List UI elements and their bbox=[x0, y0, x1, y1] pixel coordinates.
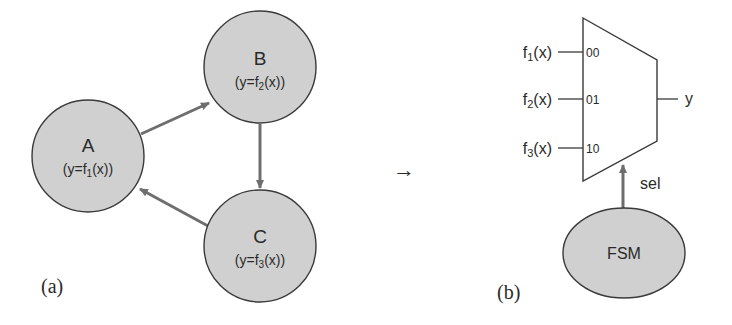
edge-c-to-a bbox=[140, 189, 208, 226]
select-signal-label: sel bbox=[640, 175, 660, 192]
mux-select-code-10: 10 bbox=[586, 142, 600, 156]
edge-a-to-b bbox=[141, 103, 209, 134]
transform-arrow-icon: → bbox=[393, 157, 415, 182]
mux-select-code-00: 00 bbox=[586, 46, 600, 60]
state-node-c-name: C bbox=[253, 226, 267, 247]
fsm-node: FSM bbox=[563, 208, 685, 298]
panel-b: f1(x) f2(x) f3(x) 00 01 10 y sel FSM (b) bbox=[497, 18, 693, 304]
mux-input-label-1: f1(x) bbox=[523, 44, 552, 63]
diagram-canvas: A (y=f1(x)) B (y=f2(x)) C (y=f3(x)) (a) … bbox=[0, 0, 732, 325]
state-node-a: A (y=f1(x)) bbox=[32, 100, 144, 212]
state-node-b: B (y=f2(x)) bbox=[204, 11, 316, 123]
state-node-b-name: B bbox=[254, 48, 267, 69]
panel-a-label: (a) bbox=[41, 275, 63, 298]
mux-input-label-2: f2(x) bbox=[523, 91, 552, 110]
state-node-a-name: A bbox=[82, 135, 95, 156]
mux-output-label: y bbox=[685, 90, 693, 107]
mux-select-code-01: 01 bbox=[586, 93, 600, 107]
fsm-label: FSM bbox=[607, 245, 641, 262]
state-node-c: C (y=f3(x)) bbox=[204, 190, 316, 302]
panel-b-label: (b) bbox=[497, 281, 520, 304]
panel-a: A (y=f1(x)) B (y=f2(x)) C (y=f3(x)) (a) bbox=[32, 11, 316, 302]
mux-input-label-3: f3(x) bbox=[523, 140, 552, 159]
